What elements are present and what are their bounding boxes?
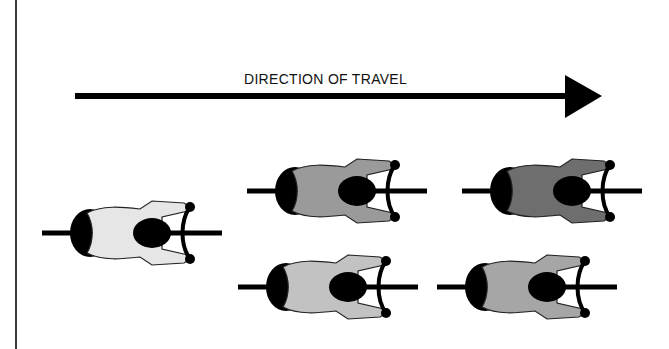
cyclist-back-right bbox=[437, 255, 617, 319]
arrowhead-icon bbox=[565, 75, 602, 118]
direction-arrow bbox=[75, 75, 602, 118]
cyclist-front-left bbox=[247, 159, 427, 223]
cyclist-lead bbox=[42, 201, 222, 265]
diagram-canvas bbox=[0, 0, 669, 349]
cyclist-front-right bbox=[462, 159, 642, 223]
cyclist-back-left bbox=[238, 255, 418, 319]
